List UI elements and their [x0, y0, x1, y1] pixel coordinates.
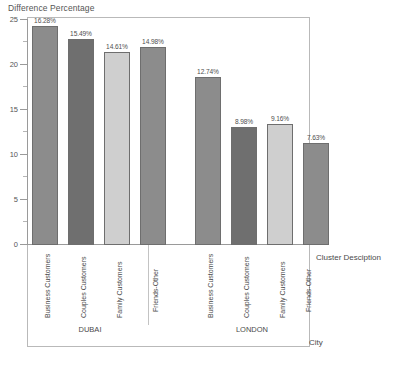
group-label-dubai: DUBAI [79, 325, 102, 334]
cluster-axis-title: Cluster Desciption [316, 253, 381, 262]
bar-value-label: 15.49% [70, 30, 92, 37]
bars-container: 16.28% 15.49% 14.61% 14.98% 12.74% 8.98%… [27, 19, 308, 245]
bar-group-dubai-couples: 15.49% [68, 19, 94, 245]
y-tick-0 [20, 244, 27, 245]
category-label-london-friends: Friends-Other [305, 269, 312, 312]
category-label-london-business: Business Customers [207, 254, 214, 318]
y-tick-label-15: 15 [0, 105, 18, 114]
category-label-london-couples: Couples Customers [243, 257, 250, 318]
bar-group-london-couples: 8.98% [231, 19, 257, 245]
bar-value-label: 14.61% [106, 43, 128, 50]
category-label-dubai-business: Business Customers [44, 254, 51, 318]
bar-value-label: 9.16% [271, 115, 289, 122]
y-tick-15 [20, 109, 27, 110]
bar-value-label: 16.28% [34, 17, 56, 24]
group-label-london: LONDON [236, 325, 268, 334]
y-tick-5 [20, 199, 27, 200]
bar-dubai-friends-other[interactable] [140, 47, 166, 245]
bar-value-label: 7.63% [307, 134, 325, 141]
city-axis-title: City [309, 338, 323, 347]
y-tick-label-25: 25 [0, 15, 18, 24]
bar-value-label: 8.98% [235, 118, 253, 125]
bar-value-label: 12.74% [197, 68, 219, 75]
y-tick-label-10: 10 [0, 150, 18, 159]
bar-chart: Difference Percentage 25 20 15 10 5 0 16… [0, 0, 393, 367]
bar-london-family-customers[interactable] [267, 124, 293, 245]
bar-group-dubai-family: 14.61% [104, 19, 130, 245]
bar-group-dubai-friends: 14.98% [140, 19, 166, 245]
category-label-london-family: Family Customers [279, 262, 286, 318]
y-axis-labels: 25 20 15 10 5 0 [0, 0, 18, 367]
category-label-dubai-family: Family Customers [116, 262, 123, 318]
y-tick-10 [20, 154, 27, 155]
chart-title: Difference Percentage [8, 3, 95, 13]
bar-london-couples-customers[interactable] [231, 127, 257, 245]
bar-london-friends-other[interactable] [303, 143, 329, 245]
bar-group-london-family: 9.16% [267, 19, 293, 245]
bar-dubai-business-customers[interactable] [32, 26, 58, 245]
y-tick-label-5: 5 [0, 195, 18, 204]
category-label-dubai-couples: Couples Customers [80, 257, 87, 318]
y-tick-25 [20, 19, 27, 20]
bar-group-london-friends: 7.63% [303, 19, 329, 245]
group-divider [148, 245, 149, 325]
bar-london-business-customers[interactable] [195, 77, 221, 245]
bar-dubai-couples-customers[interactable] [68, 39, 94, 245]
bar-group-dubai-business: 16.28% [32, 19, 58, 245]
bar-dubai-family-customers[interactable] [104, 52, 130, 245]
category-label-dubai-friends: Friends-Other [152, 269, 159, 312]
y-tick-label-20: 20 [0, 60, 18, 69]
bar-group-london-business: 12.74% [195, 19, 221, 245]
bar-value-label: 14.98% [142, 38, 164, 45]
y-tick-label-0: 0 [0, 240, 18, 249]
y-tick-20 [20, 64, 27, 65]
